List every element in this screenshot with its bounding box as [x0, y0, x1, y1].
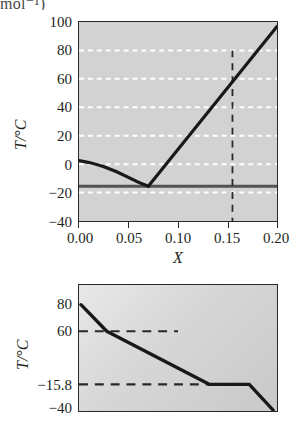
phase-diagram-svg	[79, 22, 277, 221]
cooling-curve-trace	[81, 305, 273, 410]
figure-root: mol⁻¹) T/°C 100 80 60 40 20 0 −20 −40	[0, 0, 306, 425]
phase-diagram-x-tickmark-3	[228, 222, 229, 228]
caption-fragment: mol⁻¹)	[0, 0, 110, 10]
phase-diagram-x-tick-000: 0.00	[52, 231, 108, 246]
cooling-curve-plot-area	[78, 284, 278, 412]
phase-diagram-y-tick-100: 100	[28, 15, 72, 30]
cooling-curve-y-axis-title-text: T/°C	[14, 340, 31, 370]
phase-diagram-y-tick-80: 80	[28, 43, 72, 58]
phase-diagram-gridlines	[79, 50, 277, 192]
phase-diagram-y-axis-title-text: T/°C	[12, 120, 29, 150]
phase-diagram-y-tick-minus20: −20	[22, 186, 72, 201]
phase-diagram-x-tickmark-1	[128, 222, 129, 228]
phase-diagram-x-tick-010: 0.10	[150, 231, 206, 246]
phase-diagram-y-tick-minus40: −40	[22, 215, 72, 230]
phase-diagram-y-tick-60: 60	[28, 72, 72, 87]
phase-diagram-x-tick-005: 0.05	[101, 231, 157, 246]
phase-diagram-y-tick-20: 20	[28, 129, 72, 144]
phase-diagram-plot-area	[78, 21, 278, 222]
phase-diagram-y-tick-40: 40	[28, 100, 72, 115]
cooling-curve-y-tick-60: 60	[26, 324, 72, 339]
cooling-curve-y-tick-minus158: −15.8	[12, 378, 72, 393]
cooling-curve-svg	[79, 285, 277, 411]
cooling-curve-y-tick-minus40: −40	[12, 401, 72, 416]
cooling-curve-y-tick-80: 80	[26, 297, 72, 312]
phase-diagram-x-tickmark-2	[178, 222, 179, 228]
phase-diagram-x-tickmark-4	[277, 222, 278, 228]
phase-diagram-x-tickmark-0	[78, 222, 79, 228]
cooling-curve-y-axis-title: T/°C	[14, 340, 32, 370]
phase-diagram-x-tick-015: 0.15	[199, 231, 255, 246]
phase-diagram-x-axis-title: X	[148, 249, 208, 267]
phase-diagram-y-tick-0: 0	[28, 158, 72, 173]
phase-diagram-x-tick-020: 0.20	[248, 231, 304, 246]
